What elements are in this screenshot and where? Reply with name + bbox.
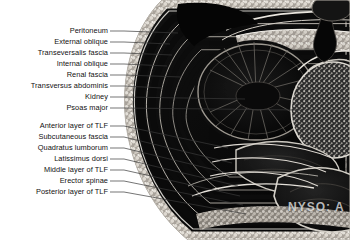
- label-anterior-layer-of-tlf: Anterior layer of TLF: [40, 122, 108, 130]
- label-subcutaneous-fascia: Subcutaneous fascia: [38, 133, 108, 141]
- figure-root: PeritoneumExternal obliqueTranseversalis…: [0, 0, 361, 240]
- leader-line-renal-fascia: [110, 75, 181, 77]
- leader-line-peritoneum: [110, 31, 178, 33]
- leader-line-middle-layer-of-tlf: [110, 170, 240, 196]
- watermark-text: NYSO: A: [288, 200, 345, 214]
- label-erector-spinae: Erector spinae: [60, 177, 108, 185]
- label-middle-layer-of-tlf: Middle layer of TLF: [44, 166, 108, 174]
- leader-line-posterior-layer-of-tlf: [110, 192, 246, 214]
- label-peritoneum: Peritoneum: [70, 27, 108, 35]
- leader-line-kidney: [110, 97, 245, 99]
- label-renal-fascia: Renal fascia: [67, 71, 108, 79]
- label-external-oblique: External oblique: [54, 38, 108, 46]
- label-posterior-layer-of-tlf: Posterior layer of TLF: [36, 188, 108, 196]
- leader-line-transeversalis-fascia: [110, 53, 172, 55]
- label-kidney: Kidney: [85, 93, 108, 101]
- label-internal-oblique: Internal oblique: [57, 60, 108, 68]
- leader-line-transversus-abdominis: [110, 86, 163, 88]
- leader-line-external-oblique: [110, 42, 170, 44]
- leader-line-internal-oblique: [110, 64, 167, 66]
- leader-line-anterior-layer-of-tlf: [110, 126, 228, 148]
- label-psoas-major: Psoas major: [66, 104, 108, 112]
- leader-line-psoas-major: [110, 108, 300, 110]
- label-transversus-abdominis: Transversus abdominis: [31, 82, 108, 90]
- label-latissimus-dorsi: Latissimus dorsi: [54, 155, 108, 163]
- label-quadratus-lumborum: Quadratus lumborum: [38, 144, 108, 152]
- label-transeversalis-fascia: Transeversalis fascia: [38, 49, 108, 57]
